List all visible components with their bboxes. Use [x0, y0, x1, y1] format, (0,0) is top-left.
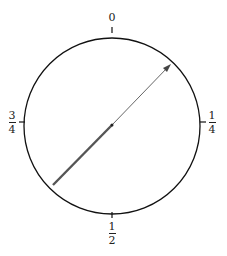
arrow-head-segment [112, 67, 168, 125]
label-bottom-den: 2 [109, 235, 116, 246]
label-top: 0 [107, 12, 117, 23]
dial-diagram [0, 0, 227, 256]
label-bottom-num: 1 [109, 221, 116, 232]
center-dot [111, 124, 114, 127]
arrow-tail-segment [53, 125, 112, 185]
label-right-num: 1 [209, 110, 216, 121]
label-left-num: 3 [9, 110, 16, 121]
label-left: 3 4 [7, 110, 17, 135]
label-left-den: 4 [9, 124, 16, 135]
label-right: 1 4 [207, 110, 217, 135]
label-bottom: 1 2 [107, 221, 117, 246]
label-right-den: 4 [209, 124, 216, 135]
